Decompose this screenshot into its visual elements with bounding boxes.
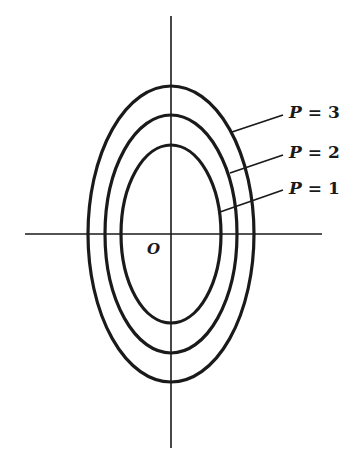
diagram-canvas (0, 0, 364, 468)
label-p1: P = 1 (289, 180, 340, 197)
leader-line-p2 (230, 155, 283, 173)
label-variable: P (289, 142, 302, 162)
label-value: 2 (328, 142, 340, 162)
origin-label: O (147, 242, 160, 257)
contour-diagram: P = 3 P = 2 P = 1 O (0, 0, 364, 468)
label-equals: = (302, 178, 328, 198)
label-p2: P = 2 (289, 144, 340, 161)
label-p3: P = 3 (289, 104, 340, 121)
label-value: 1 (328, 178, 340, 198)
leader-line-p3 (232, 115, 283, 132)
label-equals: = (302, 102, 328, 122)
label-equals: = (302, 142, 328, 162)
label-variable: P (289, 178, 302, 198)
label-value: 3 (328, 102, 340, 122)
label-variable: P (289, 102, 302, 122)
